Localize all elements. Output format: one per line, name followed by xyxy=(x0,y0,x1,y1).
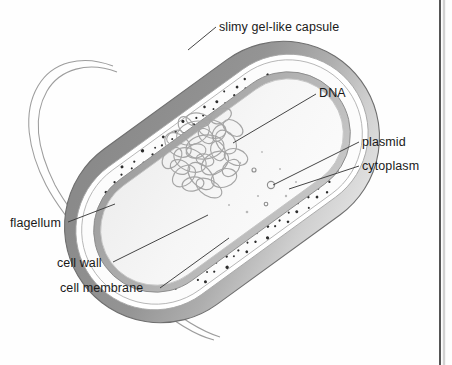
leader-capsule xyxy=(188,27,216,50)
label-cytoplasm: cytoplasm xyxy=(362,160,419,173)
diagram-page: slimy gel-like capsule DNA plasmid cytop… xyxy=(0,0,452,365)
bacterial-cell-diagram xyxy=(0,0,452,365)
label-cell-wall: cell wall xyxy=(57,257,102,270)
page-edge xyxy=(440,0,444,365)
label-slimy-gel-like-capsule: slimy gel-like capsule xyxy=(219,21,339,34)
label-flagellum: flagellum xyxy=(10,217,61,230)
label-plasmid: plasmid xyxy=(362,136,406,149)
label-cell-membrane: cell membrane xyxy=(60,282,143,295)
label-dna: DNA xyxy=(319,87,346,100)
